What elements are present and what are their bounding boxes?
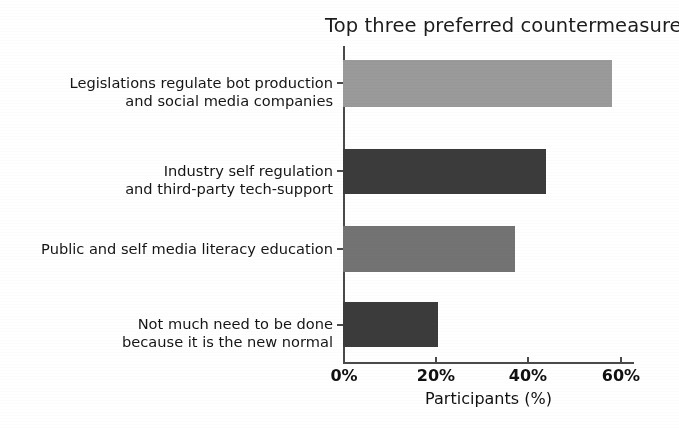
x-tick-label-20: 20% — [406, 366, 466, 385]
y-label-line: Not much need to be done — [0, 315, 333, 333]
bar-fill — [343, 302, 438, 347]
bar-chart-figure: Top three preferred countermeasures Legi… — [0, 0, 679, 428]
bar-fill — [343, 226, 515, 272]
x-tick-label-0: 0% — [314, 366, 374, 385]
y-label-line: Legislations regulate bot production — [0, 74, 333, 92]
y-tick-mark — [337, 248, 343, 250]
y-tick-mark — [337, 324, 343, 326]
y-tick-mark — [337, 82, 343, 84]
y-label-line: Industry self regulation — [0, 162, 333, 180]
y-tick-mark — [337, 170, 343, 172]
y-label-line: because it is the new normal — [0, 333, 333, 351]
bar-new-normal[interactable] — [343, 302, 438, 347]
chart-title: Top three preferred countermeasures — [325, 14, 679, 37]
y-axis-label-industry: Industry self regulation and third-party… — [0, 162, 333, 197]
x-axis-title: Participants (%) — [343, 389, 634, 408]
y-axis-label-new-normal: Not much need to be done because it is t… — [0, 315, 333, 350]
x-axis-spine — [343, 362, 634, 364]
bar-fill — [343, 149, 546, 194]
x-tick-mark-60 — [620, 357, 622, 364]
bar-fill — [343, 60, 612, 107]
x-tick-mark-20 — [435, 357, 437, 364]
y-label-line: Public and self media literacy education — [0, 240, 333, 258]
bar-media-literacy[interactable] — [343, 226, 515, 272]
x-tick-mark-40 — [527, 357, 529, 364]
x-tick-label-60: 60% — [591, 366, 651, 385]
bar-industry-self-regulation[interactable] — [343, 149, 546, 194]
y-axis-label-media-literacy: Public and self media literacy education — [0, 240, 333, 258]
bar-legislations[interactable] — [343, 60, 612, 107]
y-label-line: and third-party tech-support — [0, 180, 333, 198]
x-tick-mark-0 — [343, 357, 345, 364]
y-axis-label-legislations: Legislations regulate bot production and… — [0, 74, 333, 109]
y-label-line: and social media companies — [0, 92, 333, 110]
x-tick-label-40: 40% — [498, 366, 558, 385]
